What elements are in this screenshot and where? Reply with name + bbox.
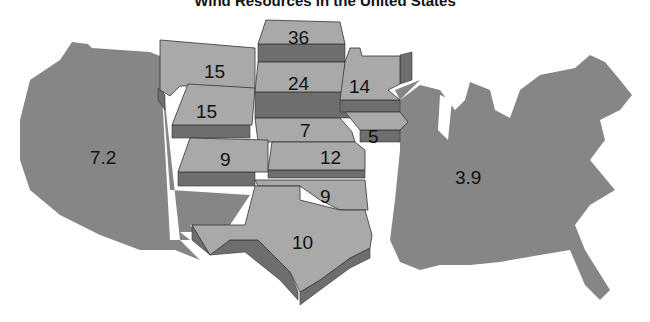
label-colorado: 9 xyxy=(220,149,231,170)
state-kansas[interactable] xyxy=(268,142,365,170)
label-wyoming: 15 xyxy=(196,101,217,122)
label-iowa: 5 xyxy=(368,126,379,147)
label-montana: 15 xyxy=(204,61,225,82)
label-oklahoma: 9 xyxy=(320,186,331,207)
label-kansas: 12 xyxy=(320,147,341,168)
label-south-dakota: 24 xyxy=(288,73,310,94)
label-nebraska: 7 xyxy=(300,120,311,141)
label-minnesota: 14 xyxy=(349,76,371,97)
us-wind-map: 7.2 3.9 15 15 36 24 14 7 5 9 12 9 10 xyxy=(0,0,650,322)
label-east: 3.9 xyxy=(455,167,481,188)
label-west: 7.2 xyxy=(90,147,116,168)
label-texas: 10 xyxy=(292,232,313,253)
base-map-east xyxy=(390,55,632,300)
label-north-dakota: 36 xyxy=(288,27,309,48)
